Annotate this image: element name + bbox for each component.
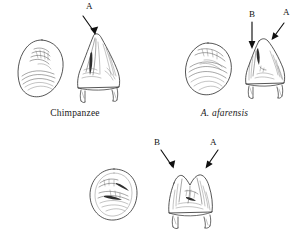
afarensis-cusp-b-label: B bbox=[249, 10, 255, 19]
afarensis-arrow-b bbox=[244, 20, 260, 54]
bottom-cusp-a-label: A bbox=[210, 138, 217, 147]
afarensis-occlusal-view bbox=[180, 40, 238, 102]
bottom-arrow-b bbox=[155, 146, 183, 178]
caption-chimpanzee: Chimpanzee bbox=[0, 108, 150, 118]
tooth-comparison-figure: A Chimpanzee bbox=[0, 0, 299, 247]
afarensis-cusp-a-label: A bbox=[283, 8, 290, 17]
caption-a-afarensis: A. afarensis bbox=[150, 108, 299, 118]
chimpanzee-cusp-a-label: A bbox=[86, 2, 93, 11]
chimpanzee-arrow-a bbox=[73, 7, 113, 49]
afarensis-arrow-a bbox=[263, 18, 293, 50]
bottom-occlusal-view bbox=[86, 166, 142, 224]
bottom-arrow-a bbox=[197, 146, 225, 178]
bottom-cusp-b-label: B bbox=[154, 138, 160, 147]
